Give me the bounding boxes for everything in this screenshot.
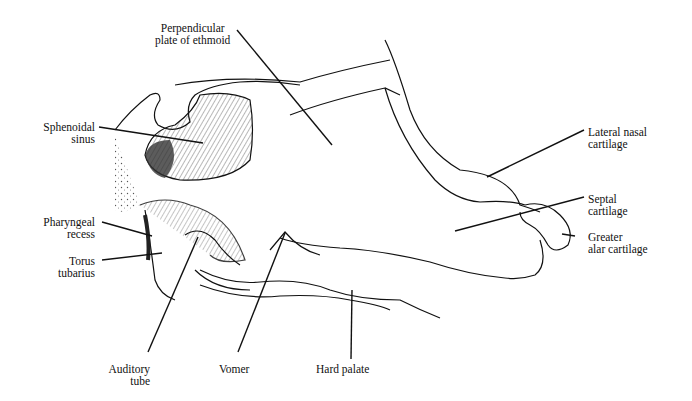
label-line: cartilage: [588, 205, 628, 217]
label-line: plate of ethmoid: [155, 34, 230, 46]
label-line: Vomer: [219, 363, 249, 375]
label-line: tubarius: [25, 267, 95, 279]
label-line: Hard palate: [316, 363, 369, 375]
label-auditory-tube: Auditory tube: [90, 363, 150, 387]
label-lateral-nasal-cartilage: Lateral nasal cartilage: [588, 126, 647, 150]
label-vomer: Vomer: [219, 363, 249, 375]
label-line: Sphenoidal: [30, 121, 95, 133]
label-sphenoidal-sinus: Sphenoidal sinus: [30, 121, 95, 145]
label-line: Perpendicular: [155, 22, 230, 34]
label-perpendicular-plate: Perpendicular plate of ethmoid: [155, 22, 230, 46]
label-hard-palate: Hard palate: [316, 363, 369, 375]
label-line: cartilage: [588, 138, 647, 150]
label-greater-alar-cartilage: Greater alar cartilage: [588, 231, 648, 255]
label-septal-cartilage: Septal cartilage: [588, 193, 628, 217]
label-line: Torus: [25, 255, 95, 267]
label-torus-tubarius: Torus tubarius: [25, 255, 95, 279]
label-line: Auditory: [90, 363, 150, 375]
label-line: sinus: [30, 133, 95, 145]
label-line: tube: [90, 375, 150, 387]
label-line: Septal: [588, 193, 628, 205]
label-line: alar cartilage: [588, 243, 648, 255]
label-line: recess: [25, 228, 95, 240]
label-line: Greater: [588, 231, 648, 243]
label-pharyngeal-recess: Pharyngeal recess: [25, 216, 95, 240]
label-line: Lateral nasal: [588, 126, 647, 138]
label-line: Pharyngeal: [25, 216, 95, 228]
anatomy-figure: Perpendicular plate of ethmoid Sphenoida…: [0, 0, 692, 401]
